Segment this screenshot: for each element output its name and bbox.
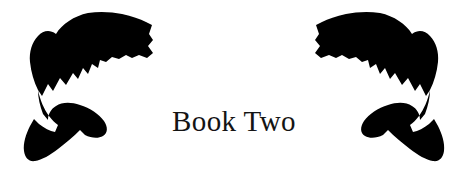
book-divider-page: Book Two (0, 0, 468, 176)
page-title: Book Two (0, 104, 468, 138)
leaping-fish-silhouette-right (314, 8, 446, 164)
fish-icon (315, 12, 444, 161)
fish-icon (24, 12, 153, 161)
leaping-fish-silhouette-left (22, 8, 154, 164)
